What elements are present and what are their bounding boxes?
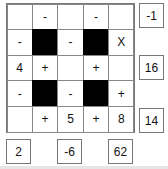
row-result-4: 14	[139, 108, 164, 133]
row-result-0: -1	[139, 3, 164, 28]
number-cell: 5	[57, 106, 83, 133]
operator-cell: -	[32, 4, 58, 31]
number-cell[interactable]	[7, 4, 33, 31]
col-result-4: 62	[108, 139, 133, 164]
number-cell: 8	[108, 106, 134, 133]
number-cell[interactable]	[108, 4, 134, 31]
operator-cell: -	[83, 4, 109, 31]
black-cell	[83, 80, 109, 107]
bottom-edge	[0, 166, 168, 169]
operator-cell: -	[7, 80, 33, 107]
operator-cell: +	[32, 106, 58, 133]
col-result-0: 2	[6, 139, 31, 164]
operator-cell: +	[83, 55, 109, 82]
number-cell[interactable]	[57, 55, 83, 82]
col-result-2: -6	[57, 139, 82, 164]
operator-cell: X	[108, 29, 134, 56]
number-cell[interactable]	[57, 4, 83, 31]
operator-cell: -	[57, 80, 83, 107]
operator-cell: -	[7, 29, 33, 56]
black-cell	[32, 80, 58, 107]
operator-cell: -	[57, 29, 83, 56]
operator-cell: +	[32, 55, 58, 82]
number-cell[interactable]	[108, 55, 134, 82]
puzzle-grid: ----X4++--++5+8	[6, 3, 135, 133]
black-cell	[83, 29, 109, 56]
operator-cell: +	[108, 80, 134, 107]
number-cell[interactable]	[7, 106, 33, 133]
operator-cell: +	[83, 106, 109, 133]
number-cell: 4	[7, 55, 33, 82]
row-result-2: 16	[139, 55, 164, 80]
black-cell	[32, 29, 58, 56]
